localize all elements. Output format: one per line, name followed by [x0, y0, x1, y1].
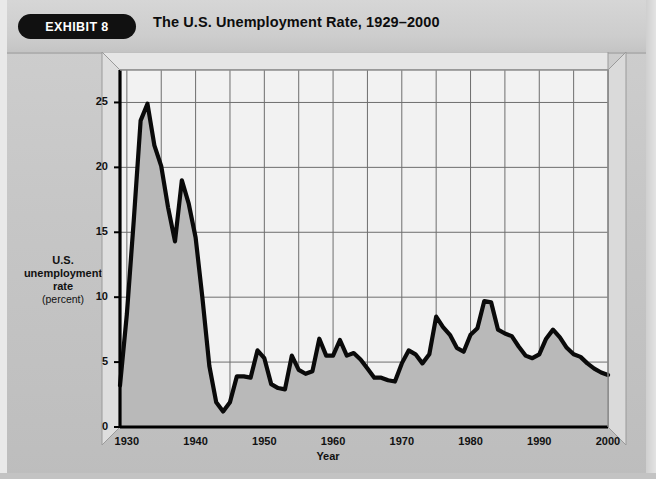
x-tick-label: 1940 [174, 435, 218, 447]
exhibit-badge-label: EXHIBIT 8 [45, 20, 108, 34]
y-tick-label: 10 [78, 290, 108, 302]
page-title: The U.S. Unemployment Rate, 1929–2000 [153, 14, 440, 30]
x-axis-label: Year [0, 450, 656, 462]
x-tick-label: 1980 [449, 435, 493, 447]
x-tick-label: 1950 [242, 435, 286, 447]
unemployment-line-chart [0, 52, 656, 479]
plot-bevel-right [608, 52, 626, 445]
chart-area: U.S. unemployment rate (percent) 0510152… [0, 52, 656, 479]
y-tick-label: 5 [78, 355, 108, 367]
x-tick-label: 1970 [380, 435, 424, 447]
y-tick-label: 0 [78, 420, 108, 432]
x-tick-label: 1960 [311, 435, 355, 447]
x-tick-label: 2000 [586, 435, 630, 447]
plot-bevel-left [102, 52, 120, 445]
x-tick-label: 1990 [517, 435, 561, 447]
plot-bevel-top [102, 52, 608, 70]
y-tick-label: 15 [78, 225, 108, 237]
exhibit-badge: EXHIBIT 8 [18, 14, 136, 39]
exhibit-figure: EXHIBIT 8 The U.S. Unemployment Rate, 19… [0, 0, 656, 479]
y-tick-label: 25 [78, 95, 108, 107]
exhibit-header: EXHIBIT 8 The U.S. Unemployment Rate, 19… [7, 0, 646, 52]
y-tick-label: 20 [78, 160, 108, 172]
x-tick-label: 1930 [105, 435, 149, 447]
